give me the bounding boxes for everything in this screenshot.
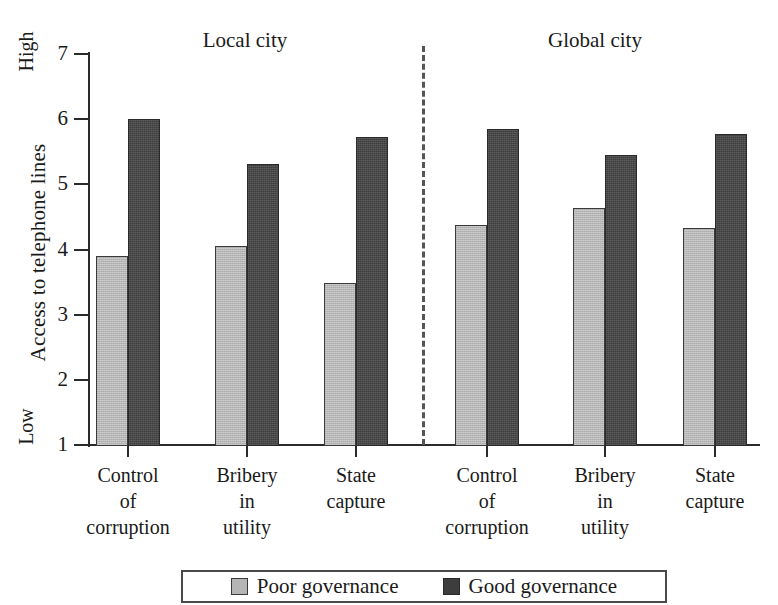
legend-item-poor-governance[interactable]: Poor governance [231, 574, 399, 599]
y-tick-6 [74, 118, 88, 120]
y-tick-label-1: 1 [40, 434, 68, 455]
x-tick-group-0 [127, 446, 129, 457]
bar-poor-governance-4 [573, 208, 605, 446]
bar-good-governance-0 [128, 119, 160, 446]
bar-good-governance-2 [356, 137, 388, 446]
x-tick-group-5 [714, 446, 716, 457]
y-tick-label-5: 5 [40, 173, 68, 194]
legend-swatch-poor-governance [231, 578, 248, 595]
y-tick-5 [74, 183, 88, 185]
panel-title-local-city: Local city [155, 28, 335, 53]
bar-poor-governance-0 [96, 256, 128, 446]
bar-poor-governance-1 [215, 246, 247, 446]
panel-divider-dashed-line [422, 46, 425, 445]
x-label-state-capture-local: State capture [281, 462, 431, 514]
legend-label-poor-governance: Poor governance [257, 574, 399, 599]
legend-swatch-good-governance [443, 578, 460, 595]
bar-poor-governance-5 [683, 228, 715, 446]
y-tick-label-7: 7 [40, 43, 68, 64]
chart-legend: Poor governance Good governance [181, 570, 667, 603]
bar-good-governance-4 [605, 155, 637, 446]
bar-good-governance-1 [247, 164, 279, 446]
bar-poor-governance-3 [455, 225, 487, 446]
bar-good-governance-3 [487, 129, 519, 446]
y-tick-4 [74, 249, 88, 251]
y-tick-7 [74, 53, 88, 55]
bar-poor-governance-2 [324, 283, 356, 446]
bar-good-governance-5 [715, 134, 747, 446]
y-tick-1 [74, 444, 88, 446]
x-tick-group-1 [246, 446, 248, 457]
panel-title-global-city: Global city [505, 28, 685, 53]
x-tick-group-2 [355, 446, 357, 457]
y-tick-label-2: 2 [40, 369, 68, 390]
y-tick-label-6: 6 [40, 108, 68, 129]
x-label-state-capture-global: State capture [640, 462, 778, 514]
y-axis-line [88, 52, 90, 447]
x-tick-group-3 [486, 446, 488, 457]
x-tick-group-4 [604, 446, 606, 457]
bar-chart-plot-area: Local city Global city 1234567 Control o… [0, 0, 778, 605]
legend-item-good-governance[interactable]: Good governance [443, 574, 618, 599]
y-tick-3 [74, 314, 88, 316]
legend-label-good-governance: Good governance [469, 574, 618, 599]
y-tick-label-3: 3 [40, 304, 68, 325]
y-tick-2 [74, 379, 88, 381]
y-tick-label-4: 4 [40, 239, 68, 260]
